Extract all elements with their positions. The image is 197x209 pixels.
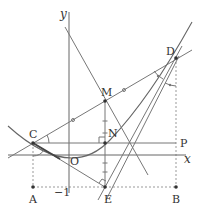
origin-label: O [70,155,79,168]
point-a [31,185,35,189]
angle-mark-d-left [157,75,159,77]
label-b: B [172,193,180,206]
label-m: M [101,86,112,99]
point-n [103,141,107,145]
segment-ce-bold [33,143,60,159]
point-m [103,99,107,103]
label-n: N [108,127,118,140]
y-axis-label: y [59,7,67,21]
point-b [174,185,178,189]
label-a: A [28,193,38,206]
angle-mark-d-right [169,84,171,86]
point-c [31,141,35,145]
label-c: C [29,128,37,141]
line-de [98,46,182,200]
angle-arc-c-upper [47,135,49,143]
line-cd [8,50,192,158]
label-d: D [166,45,175,58]
geometry-diagram: y x O −1 C D M N P A E B [0,0,197,209]
x-axis-label: x [184,152,191,166]
tick-label-minus-one: −1 [54,186,70,199]
label-e: E [104,193,112,206]
point-e [103,185,107,189]
label-p: P [180,137,188,150]
